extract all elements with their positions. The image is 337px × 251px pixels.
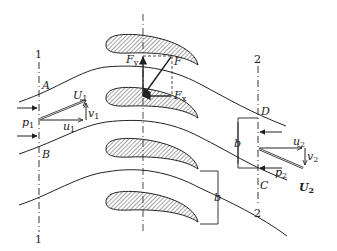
station-1-top-label: 1 (35, 49, 42, 60)
inlet-velocity-U1-label: U1 (73, 90, 87, 103)
point-c-label: C (260, 180, 268, 191)
inlet-velocity-u1-label: u1 (63, 121, 75, 134)
blade-3 (106, 138, 198, 169)
inlet-velocity-triangle (40, 100, 86, 120)
outlet-spacing-b-label: b (234, 138, 241, 149)
force-fy-label: Fy (126, 54, 138, 67)
blade-1 (106, 34, 198, 65)
cascade-diagram: 1 1 2 2 A B C D Fy F Fx U1 u1 v1 p1 U2 u… (0, 0, 337, 251)
station-2-bottom-label: 2 (254, 208, 261, 219)
diagram-graphics (0, 0, 337, 251)
inlet-velocity-v1-label: v1 (88, 108, 99, 121)
point-b-label: B (42, 149, 50, 160)
force-fx-label: Fx (174, 90, 186, 103)
force-diagram (143, 56, 172, 96)
outlet-velocity-u2-label: u2 (293, 136, 305, 149)
outlet-velocity-triangle (259, 148, 305, 168)
outlet-velocity-v2-label: v2 (307, 151, 318, 164)
blade-pitch-b-label: b (214, 192, 221, 203)
station-1-bottom-label: 1 (35, 234, 42, 245)
point-a-label: A (42, 80, 50, 91)
outlet-velocity-U2-label: U2 (299, 182, 314, 194)
blade-4 (106, 191, 198, 222)
blades (106, 34, 198, 222)
station-2-top-label: 2 (254, 54, 261, 65)
point-d-label: D (261, 106, 270, 117)
force-f-label: F (174, 56, 182, 67)
outlet-pressure-p2-label: p2 (275, 167, 287, 180)
inlet-pressure-p1-label: p1 (22, 117, 34, 130)
